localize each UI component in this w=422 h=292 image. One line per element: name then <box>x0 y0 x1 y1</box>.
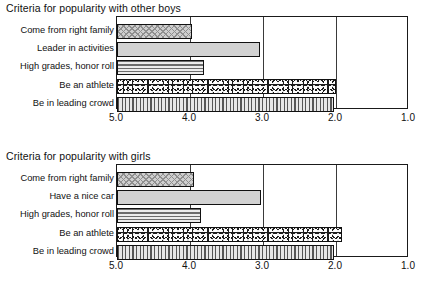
x-axis-tick-label: 1.0 <box>401 260 415 271</box>
category-label-wrap: Be in leading crowd <box>0 96 114 110</box>
bar-row <box>117 227 409 242</box>
bar-row <box>117 79 409 94</box>
bar-row <box>117 60 409 75</box>
category-label-wrap: High grades, honor roll <box>0 207 114 221</box>
x-axis-tick-label: 5.0 <box>109 112 123 123</box>
x-axis-tick-label: 4.0 <box>182 112 196 123</box>
bar-fill-solid-gray <box>117 42 260 57</box>
x-axis-tick-label: 3.0 <box>255 260 269 271</box>
x-axis-tick-label: 2.0 <box>328 260 342 271</box>
category-label-wrap: Leader in activities <box>0 41 114 55</box>
category-label-wrap: Come from right family <box>0 23 114 37</box>
category-label-wrap: Be an athlete <box>0 78 114 92</box>
bar-fill-vertical-lines <box>117 97 334 112</box>
bar-row <box>117 97 409 112</box>
category-label: Come from right family <box>20 171 114 185</box>
category-label: Leader in activities <box>37 41 114 55</box>
chart-title-girls: Criteria for popularity with girls <box>6 150 151 162</box>
bar-row <box>117 172 409 187</box>
x-axis-tick-label: 1.0 <box>401 112 415 123</box>
category-label: Be an athlete <box>59 78 114 92</box>
x-axis-tick-label: 2.0 <box>328 112 342 123</box>
category-label: High grades, honor roll <box>20 59 114 73</box>
bar-row <box>117 190 409 205</box>
bar-fill-horizontal-lines <box>117 208 201 223</box>
category-label: Be in leading crowd <box>33 244 114 258</box>
x-axis-tick-label: 3.0 <box>255 112 269 123</box>
x-axis-tick-label: 4.0 <box>182 260 196 271</box>
bar-fill-speckle <box>117 79 336 94</box>
plot-area <box>116 164 408 257</box>
category-label: Be in leading crowd <box>33 96 114 110</box>
category-label: Have a nice car <box>49 189 114 203</box>
bar-row <box>117 245 409 260</box>
bar-fill-diagonal-crosshatch <box>117 24 192 39</box>
plot-area <box>116 16 408 109</box>
chart-title-boys: Criteria for popularity with other boys <box>6 2 181 14</box>
category-label-wrap: Come from right family <box>0 171 114 185</box>
category-label-wrap: High grades, honor roll <box>0 59 114 73</box>
category-label-wrap: Be an athlete <box>0 226 114 240</box>
category-label: Be an athlete <box>59 226 114 240</box>
bar-fill-speckle <box>117 227 342 242</box>
bar-fill-horizontal-lines <box>117 60 204 75</box>
category-label-wrap: Have a nice car <box>0 189 114 203</box>
category-label-wrap: Be in leading crowd <box>0 244 114 258</box>
x-axis-tick-label: 5.0 <box>109 260 123 271</box>
bar-row <box>117 24 409 39</box>
category-label: High grades, honor roll <box>20 207 114 221</box>
bar-fill-vertical-lines <box>117 245 334 260</box>
bar-fill-solid-gray <box>117 190 261 205</box>
bar-row <box>117 42 409 57</box>
bar-fill-diagonal-crosshatch <box>117 172 194 187</box>
category-label: Come from right family <box>20 23 114 37</box>
bar-row <box>117 208 409 223</box>
